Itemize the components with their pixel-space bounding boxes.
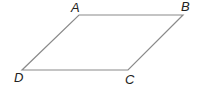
vertex-label-a: A xyxy=(70,0,80,15)
vertex-label-c: C xyxy=(125,72,135,87)
parallelogram-diagram: A B C D xyxy=(0,0,197,89)
parallelogram-shape xyxy=(22,15,183,70)
diagram-svg: A B C D xyxy=(0,0,197,89)
vertex-label-d: D xyxy=(14,70,23,85)
vertex-label-b: B xyxy=(181,0,190,14)
